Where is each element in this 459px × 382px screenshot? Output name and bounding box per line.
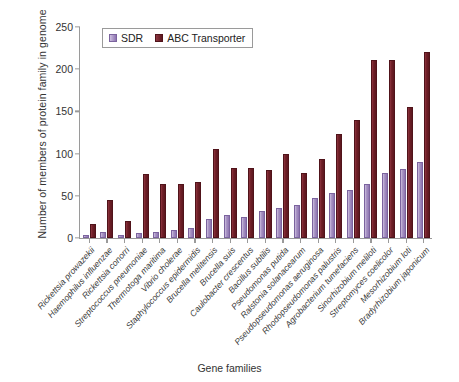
x-tick-mark [194, 238, 195, 243]
legend-label-sdr: SDR [121, 32, 143, 44]
bar-group [329, 27, 342, 238]
bar-group [241, 27, 254, 238]
bar-abc [389, 60, 395, 238]
bar-sdr [224, 215, 230, 238]
bar-group [118, 27, 131, 238]
bar-abc [160, 184, 166, 238]
chart-figure: Number of members of protein family in g… [0, 0, 459, 382]
bar-abc [319, 159, 325, 238]
x-axis-title: Gene families [0, 362, 459, 374]
y-tick-mark [75, 26, 80, 27]
bar-group [171, 27, 184, 238]
bar-abc [354, 120, 360, 238]
bar-abc [195, 182, 201, 238]
legend-label-abc: ABC Transporter [167, 32, 245, 44]
x-tick-mark [177, 238, 178, 243]
bar-sdr [294, 205, 300, 238]
x-tick-mark [230, 238, 231, 243]
bar-sdr [312, 198, 318, 238]
bar-group [312, 27, 325, 238]
chart-legend: SDR ABC Transporter [102, 28, 253, 48]
sdr-swatch-icon [109, 34, 117, 42]
bar-group [100, 27, 113, 238]
bar-group [364, 27, 377, 238]
bar-sdr [329, 193, 335, 238]
x-tick-mark [423, 238, 424, 243]
x-tick-mark [159, 238, 160, 243]
bar-abc [424, 52, 430, 238]
x-tick-mark [300, 238, 301, 243]
x-tick-mark [388, 238, 389, 243]
y-tick-mark [75, 111, 80, 112]
x-tick-mark [124, 238, 125, 243]
bar-group [206, 27, 219, 238]
bar-abc [266, 170, 272, 238]
x-tick-mark [370, 238, 371, 243]
legend-item-sdr: SDR [109, 32, 143, 44]
x-tick-mark [89, 238, 90, 243]
bar-group [294, 27, 307, 238]
bar-abc [178, 184, 184, 238]
bar-abc [371, 60, 377, 238]
bar-sdr [241, 217, 247, 238]
x-tick-mark [247, 238, 248, 243]
bar-sdr [206, 219, 212, 238]
bar-sdr [382, 173, 388, 238]
bar-abc [407, 107, 413, 238]
bar-group [153, 27, 166, 238]
y-tick-mark [75, 195, 80, 196]
x-tick-mark [335, 238, 336, 243]
x-tick-mark [318, 238, 319, 243]
bar-abc [125, 221, 131, 238]
bar-group [259, 27, 272, 238]
x-tick-mark [406, 238, 407, 243]
bar-group [188, 27, 201, 238]
bar-sdr [171, 230, 177, 238]
bar-abc [143, 174, 149, 238]
bar-sdr [347, 190, 353, 238]
x-tick-mark [106, 238, 107, 243]
bar-abc [336, 134, 342, 238]
bar-abc [301, 173, 307, 238]
bar-group [83, 27, 96, 238]
bar-abc [231, 168, 237, 238]
bar-sdr [417, 162, 423, 238]
x-tick-mark [212, 238, 213, 243]
y-tick-mark [75, 153, 80, 154]
bar-group [224, 27, 237, 238]
bar-abc [90, 224, 96, 238]
bar-sdr [188, 228, 194, 238]
bar-abc [107, 200, 113, 238]
bar-group [136, 27, 149, 238]
legend-item-abc: ABC Transporter [155, 32, 245, 44]
bar-abc [248, 168, 254, 238]
y-axis-title: Number of members of protein family in g… [36, 4, 48, 244]
bar-sdr [400, 169, 406, 238]
bar-group [400, 27, 413, 238]
bar-sdr [259, 211, 265, 238]
bar-sdr [364, 184, 370, 238]
bar-group [382, 27, 395, 238]
x-tick-mark [142, 238, 143, 243]
plot-area: 050100150200250Rickettsia prowazekiiHaem… [79, 27, 432, 239]
bar-abc [213, 149, 219, 238]
bar-abc [283, 154, 289, 238]
abc-swatch-icon [155, 34, 163, 42]
y-tick-mark [75, 69, 80, 70]
x-tick-mark [353, 238, 354, 243]
bar-group [276, 27, 289, 238]
bar-group [347, 27, 360, 238]
x-tick-mark [282, 238, 283, 243]
bar-group [417, 27, 430, 238]
x-tick-mark [265, 238, 266, 243]
bar-sdr [276, 208, 282, 238]
y-tick-mark [75, 237, 80, 238]
